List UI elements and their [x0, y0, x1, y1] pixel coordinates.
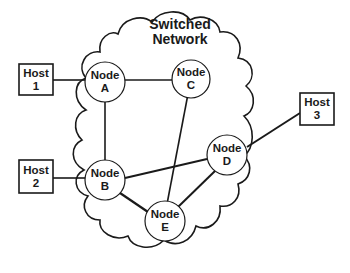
node-e-text: Node	[145, 208, 185, 221]
node-c-label: Node C	[171, 66, 211, 92]
node-b-label: Node B	[85, 167, 125, 193]
host-1-label: Host 1	[19, 67, 53, 93]
network-title: Switched Network	[140, 17, 220, 47]
host-3-label: Host 3	[300, 96, 334, 122]
node-b-id: B	[85, 180, 125, 193]
node-d-id: D	[207, 155, 247, 168]
link-nodeC-nodeE	[167, 94, 188, 204]
host-1-id: 1	[19, 80, 53, 93]
host-1-text: Host	[19, 67, 53, 80]
title-line-2: Network	[140, 32, 220, 47]
link-nodeB-nodeE	[120, 193, 148, 212]
link-nodeB-nodeD	[125, 159, 207, 178]
title-line-1: Switched	[140, 17, 220, 32]
switched-network-diagram: Switched Network Node A Node B Node C No…	[0, 0, 350, 273]
host-3-id: 3	[300, 109, 334, 122]
host-2-label: Host 2	[19, 164, 53, 190]
host-2-id: 2	[19, 177, 53, 190]
node-c-text: Node	[171, 66, 211, 79]
node-c-id: C	[171, 79, 211, 92]
link-nodeD-nodeE	[178, 171, 215, 207]
node-e-label: Node E	[145, 208, 185, 234]
node-d-text: Node	[207, 142, 247, 155]
host-2-text: Host	[19, 164, 53, 177]
node-a-label: Node A	[85, 69, 125, 95]
node-b-text: Node	[85, 167, 125, 180]
node-e-id: E	[145, 221, 185, 234]
node-a-id: A	[85, 82, 125, 95]
node-d-label: Node D	[207, 142, 247, 168]
node-a-text: Node	[85, 69, 125, 82]
link-host3-nodeD	[247, 113, 300, 147]
host-3-text: Host	[300, 96, 334, 109]
